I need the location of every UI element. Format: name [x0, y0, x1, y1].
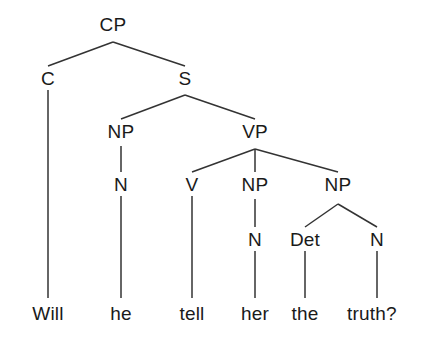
- tree-edge-cp-to-s: [113, 42, 185, 66]
- tree-edges: [48, 42, 377, 298]
- tree-terminal-truth: truth?: [347, 304, 397, 323]
- tree-edge-s-to-np1: [121, 95, 185, 119]
- tree-edge-cp-to-c: [48, 42, 113, 66]
- tree-node-n2: N: [248, 230, 262, 249]
- syntax-tree-diagram: CPCSNPVPNVNPNPNDetN Willhetellherthetrut…: [0, 0, 426, 343]
- tree-node-n3: N: [370, 230, 384, 249]
- tree-terminal-will: Will: [32, 304, 63, 323]
- tree-edge-np3-to-n3: [338, 204, 377, 227]
- tree-node-np2: NP: [242, 175, 269, 194]
- tree-edge-vp-to-v: [192, 149, 255, 172]
- tree-terminal-her: her: [241, 304, 269, 323]
- tree-node-np3: NP: [325, 175, 352, 194]
- tree-edge-vp-to-np3: [255, 149, 338, 172]
- tree-terminal-the: the: [291, 304, 318, 323]
- tree-node-s: S: [179, 69, 192, 88]
- tree-node-v: V: [186, 175, 199, 194]
- tree-terminal-he: he: [110, 304, 132, 323]
- tree-node-np1: NP: [108, 122, 135, 141]
- tree-node-vp: VP: [242, 122, 268, 141]
- tree-edge-s-to-vp: [185, 95, 255, 119]
- tree-node-n1: N: [114, 175, 128, 194]
- tree-edges-layer: [0, 0, 426, 343]
- tree-node-det: Det: [290, 230, 320, 249]
- tree-terminal-tell: tell: [179, 304, 204, 323]
- tree-edge-np3-to-det: [305, 204, 338, 227]
- tree-node-c: C: [41, 69, 55, 88]
- tree-node-cp: CP: [100, 15, 127, 34]
